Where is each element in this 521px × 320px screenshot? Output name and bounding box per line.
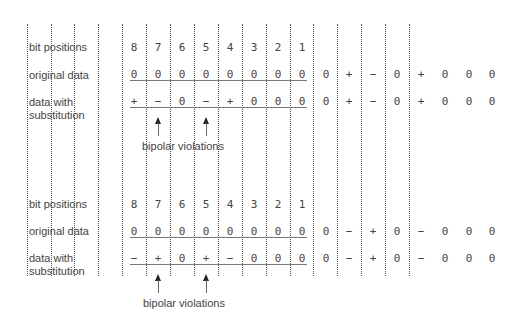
bit-cell: 0 [459,225,479,238]
bit-cell: 0 [459,95,479,108]
dotted-gridline [122,24,123,276]
bit-cell: + [411,95,431,108]
dotted-gridline [51,24,52,276]
dotted-gridline [337,24,338,276]
bit-cell: 7 [148,198,168,211]
arrow-shaft [206,280,207,293]
bit-cell: + [363,252,383,265]
bit-cell: − [339,225,359,238]
bit-cell: 3 [244,41,264,54]
dotted-gridline [313,24,314,276]
bit-cell: − [363,68,383,81]
bit-cell: 6 [172,198,192,211]
bit-cell: 5 [196,41,216,54]
bit-cell: 2 [268,198,288,211]
bit-cell: 0 [435,68,455,81]
label-original-data: original data [29,69,89,82]
bit-cell: 8 [124,41,144,54]
bit-cell: 4 [220,198,240,211]
bit-cell: 2 [268,41,288,54]
bit-cell: 0 [435,95,455,108]
label-substitution: substitution [29,265,85,278]
bit-cell: 0 [387,225,407,238]
bit-cell: − [363,95,383,108]
dotted-gridline [385,24,386,276]
caption-bipolar-violations: bipolar violations [142,140,224,152]
substitution-underline [130,107,307,108]
bit-cell: 0 [459,68,479,81]
bit-cell: 0 [435,225,455,238]
caption-bipolar-violations: bipolar violations [143,297,225,309]
label-substitution: substitution [29,109,85,122]
dotted-gridline [266,24,267,276]
dotted-gridline [98,24,99,276]
bit-cell: 0 [387,95,407,108]
arrow-shaft [158,123,159,136]
bit-cell: 8 [124,198,144,211]
dotted-gridline [361,24,362,276]
bit-cell: 0 [482,225,502,238]
bit-cell: + [411,68,431,81]
bit-cell: 0 [316,252,336,265]
bit-cell: 0 [387,252,407,265]
label-data-with: data with [29,96,73,109]
bit-cell: + [339,68,359,81]
bit-cell: − [411,252,431,265]
bit-cell: 0 [387,68,407,81]
dotted-gridline [290,24,291,276]
original-data-underline [130,80,307,81]
dotted-gridline [74,24,75,276]
bit-cell: 1 [292,41,312,54]
bit-cell: 6 [172,41,192,54]
arrow-shaft [158,280,159,293]
bit-cell: 0 [482,252,502,265]
bit-cell: 0 [482,95,502,108]
arrow-shaft [206,123,207,136]
label-data-with: data with [29,252,73,265]
label-bit-positions: bit positions [29,41,87,54]
label-bit-positions: bit positions [29,198,87,211]
bit-cell: 1 [292,198,312,211]
bit-cell: 4 [220,41,240,54]
bit-cell: − [411,225,431,238]
dotted-gridline [242,24,243,276]
label-original-data: original data [29,225,89,238]
bit-cell: + [339,95,359,108]
bit-cell: 0 [316,225,336,238]
bit-cell: 0 [316,95,336,108]
bit-cell: − [339,252,359,265]
bit-cell: 0 [316,68,336,81]
bit-cell: 0 [459,252,479,265]
bit-cell: 3 [244,198,264,211]
bit-cell: 0 [435,252,455,265]
dotted-gridline [409,24,410,276]
dotted-gridline [27,24,28,276]
bit-cell: 5 [196,198,216,211]
substitution-underline [130,264,307,265]
bit-cell: 7 [148,41,168,54]
bit-cell: 0 [482,68,502,81]
original-data-underline [130,237,307,238]
bit-cell: + [363,225,383,238]
